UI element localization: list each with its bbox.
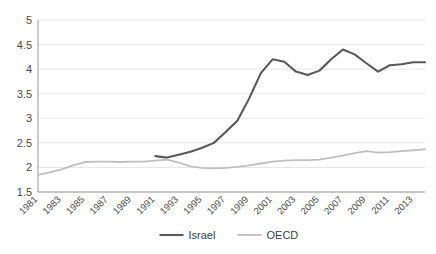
- y-tick-label: 4: [26, 63, 32, 75]
- legend-label: Israel: [189, 229, 216, 241]
- chart-container: 1.522.533.544.55 19811983198519871989199…: [0, 0, 436, 254]
- line-chart: 1.522.533.544.55 19811983198519871989199…: [0, 0, 436, 254]
- y-tick-label: 3.5: [17, 88, 32, 100]
- y-tick-label: 3: [26, 112, 32, 124]
- chart-background: [0, 0, 436, 254]
- y-tick-label: 5: [26, 14, 32, 26]
- y-tick-label: 4.5: [17, 39, 32, 51]
- y-tick-label: 2: [26, 161, 32, 173]
- y-tick-label: 2.5: [17, 137, 32, 149]
- legend-label: OECD: [267, 229, 299, 241]
